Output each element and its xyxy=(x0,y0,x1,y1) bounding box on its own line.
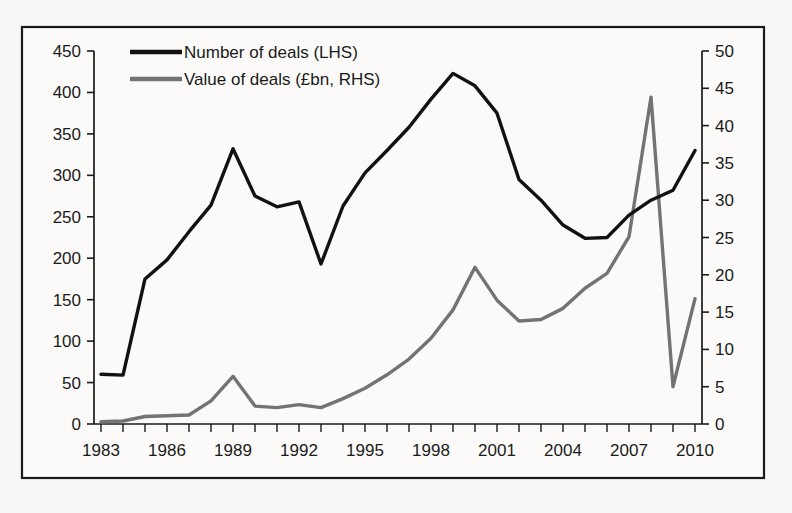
right-axis-tick-label: 5 xyxy=(715,378,724,397)
x-axis-tick-label: 1989 xyxy=(214,441,252,460)
chart-figure: 050100150200250300350400450 051015202530… xyxy=(0,0,792,513)
legend-label-number-of-deals: Number of deals (LHS) xyxy=(184,43,358,62)
x-axis-tick-label: 1983 xyxy=(82,441,120,460)
left-axis-tick-label: 250 xyxy=(53,208,81,227)
x-axis-tick-label: 1986 xyxy=(148,441,186,460)
right-axis-tick-label: 35 xyxy=(715,154,734,173)
left-axis-tick-label: 350 xyxy=(53,125,81,144)
x-axis-tick-label: 2001 xyxy=(478,441,516,460)
right-axis-tick-label: 0 xyxy=(715,415,724,434)
right-axis-tick-label: 20 xyxy=(715,266,734,285)
x-axis-tick-label: 1998 xyxy=(412,441,450,460)
left-axis-tick-label: 100 xyxy=(53,332,81,351)
right-axis-tick-label: 30 xyxy=(715,191,734,210)
right-axis-tick-label: 45 xyxy=(715,79,734,98)
x-axis-tick-label: 2007 xyxy=(610,441,648,460)
left-axis-tick-label: 200 xyxy=(53,249,81,268)
plot-frame xyxy=(22,27,764,478)
x-axis-tick-label: 2010 xyxy=(676,441,714,460)
right-axis-tick-label: 15 xyxy=(715,303,734,322)
right-axis-tick-label: 50 xyxy=(715,42,734,61)
left-axis-tick-label: 50 xyxy=(62,374,81,393)
x-axis-tick-label: 1992 xyxy=(280,441,318,460)
left-axis-tick-label: 300 xyxy=(53,166,81,185)
right-axis-tick-label: 25 xyxy=(715,229,734,248)
left-axis-tick-label: 150 xyxy=(53,291,81,310)
right-axis-tick-label: 40 xyxy=(715,117,734,136)
left-axis-tick-label: 0 xyxy=(72,415,81,434)
x-axis-tick-label: 2004 xyxy=(544,441,582,460)
legend-label-value-of-deals: Value of deals (£bn, RHS) xyxy=(184,70,380,89)
left-axis-tick-label: 450 xyxy=(53,42,81,61)
x-axis-tick-label: 1995 xyxy=(346,441,384,460)
left-axis-tick-label: 400 xyxy=(53,83,81,102)
right-axis-tick-label: 10 xyxy=(715,340,734,359)
line-chart: 050100150200250300350400450 051015202530… xyxy=(0,0,792,513)
